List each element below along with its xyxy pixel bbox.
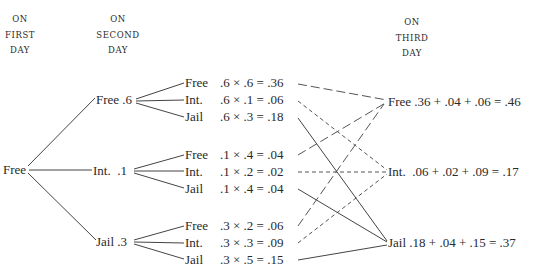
leaf-calc: .3 × .3 = .09 (220, 236, 283, 250)
leaf-state: Free (185, 219, 208, 233)
leaf-state: Int. (185, 93, 203, 107)
leaf-state: Jail (185, 253, 203, 267)
leaf-state: Free (185, 76, 208, 90)
edge-to-free (298, 102, 387, 155)
root-node-free: Free (3, 163, 26, 177)
leaf-calc: .1 × .4 = .04 (220, 148, 283, 162)
edge-root-free (28, 98, 95, 166)
leaf-calc: .3 × .2 = .06 (220, 219, 283, 233)
edge-to-jail (298, 189, 387, 242)
second-day-free: Free .6 (96, 93, 132, 107)
third-day-int-total: Int. .06 + .02 + .09 = .17 (388, 165, 519, 179)
leaf-calc: .1 × .4 = .04 (220, 182, 283, 196)
leaf-calc: .6 × .3 = .18 (220, 110, 283, 124)
third-day-jail-total: Jail .18 + .04 + .15 = .37 (388, 236, 516, 250)
edge-to-jail (298, 245, 387, 260)
leaf-state: Int. (185, 165, 203, 179)
leaf-state: Int. (185, 236, 203, 250)
second-day-jail: Jail .3 (96, 235, 127, 249)
leaf-calc: .1 × .2 = .02 (220, 165, 283, 179)
edge-to-int (298, 174, 387, 243)
leaf-calc: .6 × .6 = .36 (220, 76, 283, 90)
edge-to-int (298, 101, 387, 170)
leaf-calc: .3 × .5 = .15 (220, 253, 283, 267)
leaf-state: Free (185, 148, 208, 162)
third-day-free-total: Free .36 + .04 + .06 = .46 (388, 95, 521, 109)
leaf-state: Jail (185, 110, 203, 124)
leaf-calc: .6 × .1 = .06 (220, 93, 283, 107)
edge-to-free (298, 104, 384, 226)
leaf-state: Jail (185, 182, 203, 196)
edge-root-jail (28, 173, 96, 240)
edge-to-jail (298, 118, 387, 241)
second-day-int: Int. .1 (93, 164, 127, 178)
edge-to-free (298, 84, 387, 100)
